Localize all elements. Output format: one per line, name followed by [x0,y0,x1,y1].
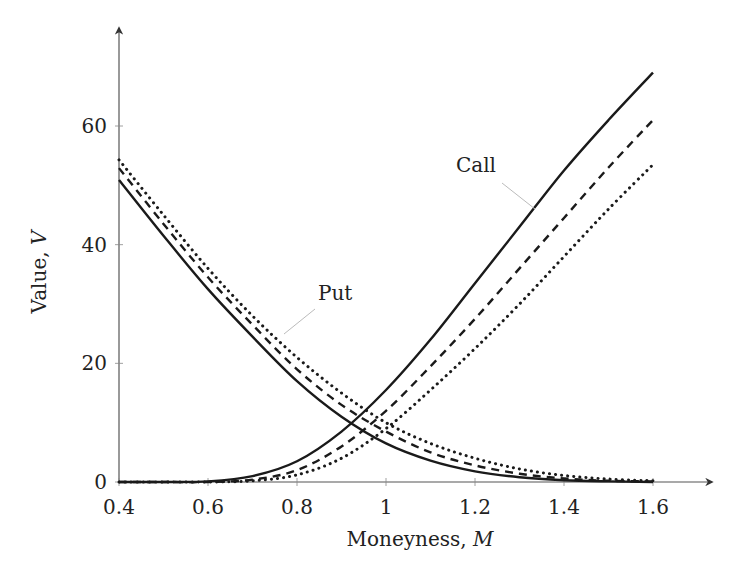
y-ticks: 0204060 [82,114,123,494]
y-tick-label: 0 [94,470,107,494]
put-dashed-line [119,168,653,481]
x-axis-label-var: M [472,527,494,551]
x-tick-label: 1.2 [459,495,491,519]
call-dotted-line [119,165,653,483]
x-tick-label: 0.6 [192,495,224,519]
x-tick-label: 1.6 [637,495,669,519]
x-tick-label: 0.4 [103,495,135,519]
x-ticks: 0.40.60.811.21.41.6 [103,478,669,519]
y-tick-label: 60 [82,114,107,138]
y-tick-label: 40 [82,233,107,257]
x-tick-label: 1.4 [548,495,580,519]
x-tick-label: 1 [380,495,393,519]
put-annotation: Put [318,281,352,305]
y-axis-label-var: V [27,228,51,245]
y-tick-label: 20 [82,351,107,375]
axes [119,28,712,482]
y-axis-label-text: Value, [27,245,51,314]
y-axis-label: Value, V [27,228,51,314]
call-annotation: Call [456,153,496,177]
chart: 0.40.60.811.21.41.6 0204060 Call Put Mon… [0,0,740,586]
x-tick-label: 0.8 [281,495,313,519]
x-axis-label: Moneyness, M [347,527,495,551]
put-leader-line [284,309,315,334]
series-lines [119,73,653,483]
put-solid-line [119,180,653,482]
call-leader-line [502,183,535,209]
x-axis-label-text: Moneyness, [347,527,474,551]
